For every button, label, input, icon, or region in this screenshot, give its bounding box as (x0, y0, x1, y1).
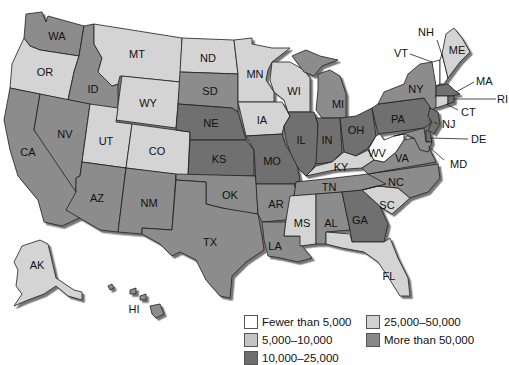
legend-label: More than 50,000 (384, 334, 474, 346)
legend-label: 25,000–50,000 (384, 316, 461, 328)
label-ne: NE (203, 117, 218, 129)
label-ms: MS (294, 217, 311, 229)
label-sd: SD (202, 85, 217, 97)
legend-item-25000-50000: 25,000–50,000 (366, 314, 496, 329)
callout-nh: NH (418, 26, 434, 38)
callout-ri: RI (497, 93, 508, 105)
label-ca: CA (20, 146, 36, 158)
state-ri (448, 96, 454, 104)
label-nc: NC (388, 176, 404, 188)
label-nd: ND (200, 52, 216, 64)
label-mn: MN (246, 68, 263, 80)
legend-item-fewer-than-5000: Fewer than 5,000 (244, 314, 362, 329)
state-ma (436, 84, 460, 96)
label-co: CO (149, 145, 166, 157)
label-nm: NM (140, 197, 157, 209)
label-me: ME (449, 44, 466, 56)
label-ar: AR (268, 198, 283, 210)
legend-label: Fewer than 5,000 (262, 316, 352, 328)
label-oh: OH (348, 124, 365, 136)
state-ct (436, 96, 448, 108)
label-va: VA (395, 152, 410, 164)
label-az: AZ (90, 192, 104, 204)
label-mi: MI (332, 98, 344, 110)
label-ut: UT (99, 135, 114, 147)
state-ak (14, 240, 82, 306)
label-ga: GA (352, 214, 369, 226)
legend-swatch (244, 351, 258, 365)
label-il: IL (296, 134, 305, 146)
callout-vt: VT (394, 47, 408, 59)
label-pa: PA (391, 113, 406, 125)
legend: Fewer than 5,000 25,000–50,000 5,000–10,… (244, 314, 509, 364)
label-ak: AK (30, 259, 45, 271)
label-sc: SC (379, 199, 394, 211)
label-fl: FL (383, 270, 396, 282)
label-ks: KS (212, 153, 227, 165)
us-map: WA OR CA ID NV MT WY UT CO AZ NM ND SD N… (0, 0, 509, 365)
label-id: ID (88, 83, 99, 95)
label-tn: TN (322, 181, 337, 193)
legend-item-5000-10000: 5,000–10,000 (244, 332, 362, 347)
label-wa: WA (48, 30, 66, 42)
state-fl (326, 232, 410, 296)
callout-ct: CT (461, 106, 476, 118)
label-ok: OK (222, 189, 239, 201)
label-tx: TX (203, 236, 218, 248)
label-wv: WV (368, 147, 386, 159)
label-wi: WI (287, 85, 300, 97)
legend-swatch (244, 333, 258, 347)
label-ia: IA (257, 114, 268, 126)
label-mt: MT (129, 48, 145, 60)
legend-item-more-than-50000: More than 50,000 (366, 332, 496, 347)
legend-swatch (366, 333, 380, 347)
callout-de: DE (471, 133, 486, 145)
label-hi: HI (129, 303, 140, 315)
legend-item-10000-25000: 10,000–25,000 (244, 350, 362, 365)
label-or: OR (37, 66, 54, 78)
legend-label: 5,000–10,000 (262, 334, 332, 346)
label-ny: NY (408, 83, 424, 95)
legend-label: 10,000–25,000 (262, 352, 339, 364)
legend-swatch (366, 315, 380, 329)
callout-ma: MA (476, 75, 493, 87)
label-al: AL (324, 217, 337, 229)
legend-swatch (244, 315, 258, 329)
label-wy: WY (139, 97, 157, 109)
callout-md: MD (450, 158, 467, 170)
label-mo: MO (263, 155, 281, 167)
label-ky: KY (334, 161, 349, 173)
label-in: IN (322, 134, 333, 146)
label-nv: NV (57, 128, 73, 140)
label-la: LA (268, 240, 282, 252)
callout-nj: NJ (442, 118, 455, 130)
